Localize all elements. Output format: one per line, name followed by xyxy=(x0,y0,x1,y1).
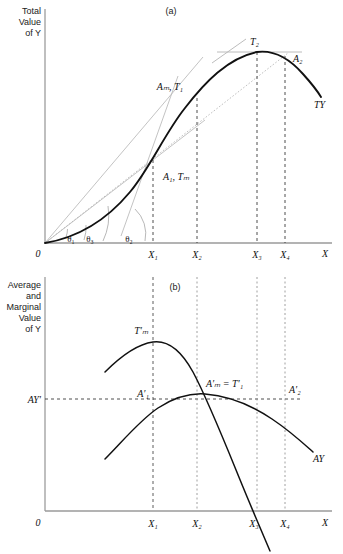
panel-a-label-theta1: θ₁ xyxy=(67,234,74,244)
panel-a-xtick-x2: X₂ xyxy=(191,249,202,260)
panel-a-caption: (a) xyxy=(166,6,177,16)
panel-a: (a) Total Value of Y Aₘ, T₁ A₁ xyxy=(19,6,332,260)
panel-a-ylabel-line-2: Value xyxy=(19,17,41,27)
panel-b-origin-label: 0 xyxy=(36,517,41,528)
panel-b-label-ay-prime: AY' xyxy=(27,394,42,405)
panel-a-xtick-x1: X₁ xyxy=(147,249,158,260)
panel-a-label-ty: TY xyxy=(314,99,327,110)
panel-b-xtick-x2: X₂ xyxy=(191,518,202,529)
panel-b-label-ay: AY xyxy=(312,453,326,464)
panel-a-ylabel-line-3: of Y xyxy=(25,28,41,38)
panel-b: (b) Average and Marginal Value of Y T′ₘ … xyxy=(6,277,332,551)
panel-a-label-t2: T₂ xyxy=(250,36,260,47)
panel-a-label-theta3: θ₃ xyxy=(86,234,93,244)
panel-a-ylabel-line-1: Total xyxy=(22,6,41,16)
panel-a-tangent-t1 xyxy=(121,76,178,236)
panel-a-tangent-t2-leader xyxy=(212,39,246,63)
panel-b-ylabel-line-4: Value xyxy=(19,313,41,323)
panel-b-caption: (b) xyxy=(170,282,181,292)
panel-b-marginal-curve xyxy=(105,342,270,551)
panel-a-xaxis-label: X xyxy=(321,248,329,259)
panel-b-xtick-x1: X₁ xyxy=(147,518,158,529)
panel-b-xtick-x4: X₄ xyxy=(279,518,290,529)
panel-a-xtick-x4: X₄ xyxy=(279,249,290,260)
panel-b-label-am-eq-t1: A′ₘ = T′₁ xyxy=(205,378,243,389)
panel-a-label-a2: A₂ xyxy=(292,53,303,64)
panel-b-xtick-x3: X₃ xyxy=(248,518,259,529)
economics-figure: (a) Total Value of Y Aₘ, T₁ A₁ xyxy=(0,0,343,554)
panel-b-label-a1-prime: A′₁ xyxy=(136,388,149,399)
panel-a-angle-arc-theta2 xyxy=(135,209,146,241)
panel-b-ylabel-line-3: Marginal xyxy=(6,302,41,312)
panel-a-angle-arc-theta3-outer xyxy=(103,206,109,241)
panel-a-label-a1-tm: A₁, Tₘ xyxy=(162,171,190,182)
panel-a-xtick-x3: X₃ xyxy=(251,249,262,260)
panel-b-ylabel-line-5: of Y xyxy=(25,324,41,334)
panel-b-average-curve xyxy=(105,394,313,459)
panel-a-origin-label: 0 xyxy=(36,248,41,259)
panel-a-label-theta2: θ₂ xyxy=(125,234,132,244)
figure-svg: (a) Total Value of Y Aₘ, T₁ A₁ xyxy=(0,0,343,554)
panel-a-label-am-t1: Aₘ, T₁ xyxy=(156,81,183,92)
panel-b-label-a2-prime: A′₂ xyxy=(288,384,301,395)
panel-b-label-tm-prime: T′ₘ xyxy=(134,325,149,336)
panel-b-xaxis-label: X xyxy=(321,517,329,528)
panel-b-ylabel-line-1: Average xyxy=(8,280,41,290)
panel-b-ylabel-line-2: and xyxy=(26,291,41,301)
